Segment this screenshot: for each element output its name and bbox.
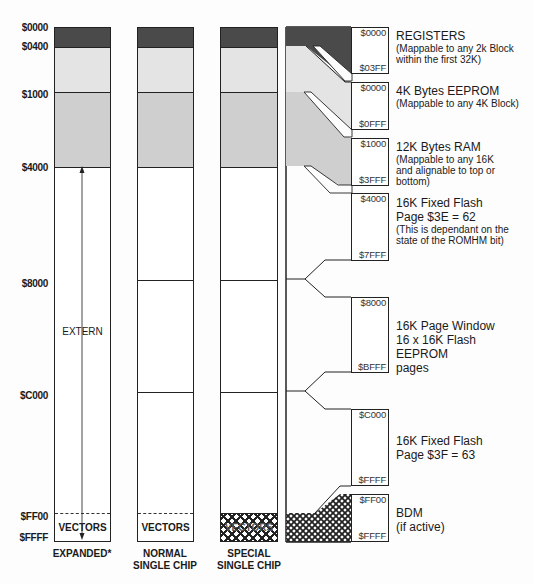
label-ram: 12K Bytes RAM (Mappable to any 16K and a… bbox=[396, 140, 506, 187]
detail-box-flash-3f: $C000 $FFFF bbox=[351, 409, 389, 486]
detail-box-bdm: $FF00 $FFFF bbox=[351, 494, 389, 542]
detail-box-eeprom: $0000 $0FFF bbox=[351, 82, 389, 130]
caption-special-single-chip: SPECIAL SINGLE CHIP bbox=[209, 548, 289, 572]
label-registers: REGISTERS (Mappable to any 2k Block with… bbox=[396, 29, 531, 65]
label-bdm: BDM (if active) bbox=[396, 506, 496, 534]
label-flash-3e: 16K Fixed Flash Page $3E = 62 (This is d… bbox=[396, 196, 526, 246]
label-page-window: 16K Page Window 16 x 16K Flash EEPROM pa… bbox=[396, 319, 531, 375]
caption-normal-single-chip: NORMAL SINGLE CHIP bbox=[125, 548, 205, 572]
detail-box-page-window: $8000 $BFFF bbox=[351, 297, 389, 373]
detail-box-ram: $1000 $3FFF bbox=[351, 138, 389, 186]
label-flash-3f: 16K Fixed Flash Page $3F = 63 bbox=[396, 434, 526, 462]
caption-expanded: EXPANDED* bbox=[42, 548, 122, 560]
label-eeprom: 4K Bytes EEPROM (Mappable to any 4K Bloc… bbox=[396, 84, 531, 109]
detail-box-flash-3e: $4000 $7FFF bbox=[351, 193, 389, 261]
detail-box-registers: $0000 $03FF bbox=[351, 27, 389, 74]
